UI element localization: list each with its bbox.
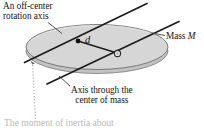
com-axis-label-line1: Axis through the: [71, 85, 133, 95]
mass-label-text: Mass: [166, 31, 188, 41]
center-of-mass-axis-label: Axis through the center of mass: [71, 85, 133, 106]
distance-label: d: [85, 35, 90, 45]
figure-caption: The moment of inertia about: [4, 117, 114, 128]
mass-symbol: M: [188, 31, 196, 41]
off-center-point-marker: [76, 39, 81, 44]
off-center-axis-label-line2: rotation axis: [3, 11, 53, 21]
center-of-mass-point-inner: [116, 52, 118, 54]
inertia-diagram-figure: An off-center rotation axis Mass M d Axi…: [0, 0, 204, 131]
com-axis-label-line2: center of mass: [71, 95, 133, 105]
mass-label: Mass M: [166, 31, 195, 41]
dotted-reference-line: [33, 62, 36, 121]
off-center-axis-label-line1: An off-center: [3, 1, 53, 11]
com-axis-leader: [59, 76, 70, 86]
off-center-axis-label: An off-center rotation axis: [3, 1, 53, 22]
